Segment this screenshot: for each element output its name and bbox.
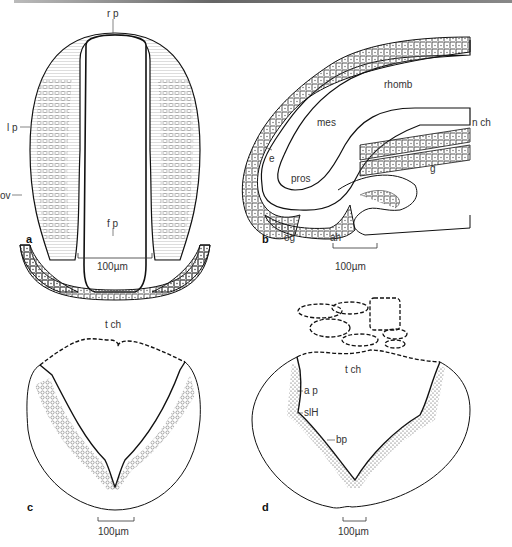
figure-drawing [0,0,512,547]
label-mesencephalon: mes [317,118,336,128]
label-roof-plate: r p [107,9,119,19]
scale-bar-a-label: 100µm [97,262,128,272]
label-alar-plate: a p [304,386,318,396]
label-gut: g [430,164,436,174]
scale-bar-d-label: 100µm [338,527,369,537]
label-notochord: n ch [472,118,491,128]
panel-b-drawing [242,37,470,248]
label-epiphysis: e [269,154,275,164]
label-prosencephalon: pros [291,174,310,184]
label-basal-plate: bp [336,435,347,445]
label-ah: ah [330,233,341,243]
panel-letter-a: a [26,234,32,245]
label-floor-plate: f p [107,219,118,229]
scale-bar-b-label: 100µm [335,262,366,272]
label-d-tch: t ch [345,365,361,375]
label-c-tch: t ch [105,320,121,330]
panel-c-drawing [27,339,200,521]
label-rhombencephalon: rhomb [384,80,412,90]
panel-a-drawing [12,19,210,300]
label-lateral-plate: l p [7,123,18,133]
panel-letter-b: b [262,234,269,245]
scale-bar-c-label: 100µm [98,527,129,537]
label-sulcus-limitans: slH [304,408,318,418]
panel-letter-c: c [27,502,33,513]
label-optic-vesicle: ov [0,191,11,201]
label-og: og [284,233,295,243]
panel-d-drawing [252,298,470,521]
panel-letter-d: d [262,502,269,513]
